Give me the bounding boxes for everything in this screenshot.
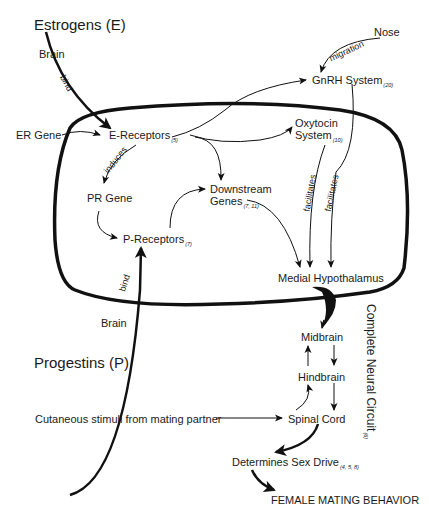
oxytocin-line2: System xyxy=(295,129,332,141)
downstream-line1: Downstream xyxy=(210,183,272,195)
node-pr-gene: PR Gene xyxy=(87,192,132,204)
node-medial-hypothalamus: Medial Hypothalamus xyxy=(278,272,384,284)
node-midbrain: Midbrain xyxy=(301,331,343,343)
edge-preceptors-downstream xyxy=(170,189,205,228)
edge-progestin-bind xyxy=(70,248,141,495)
complete-circuit-ref: (6) xyxy=(363,432,369,439)
edge-ereceptors-gnrh xyxy=(172,80,306,137)
node-er-gene: ER Gene xyxy=(16,129,61,141)
node-progestins: Progestins (P) xyxy=(34,355,129,371)
node-p-receptors: P-Receptors(7) xyxy=(123,233,192,250)
node-brain-top: Brain xyxy=(39,48,65,60)
node-e-receptors: E-Receptors(5) xyxy=(109,129,178,146)
label-complete-neural-circuit: Complete Neural Circuit(6) xyxy=(363,304,378,439)
e-receptors-ref: (5) xyxy=(171,137,178,143)
edge-spinal-sexdrive xyxy=(276,424,318,452)
oxytocin-ref: (10) xyxy=(333,137,343,143)
p-receptors-label: P-Receptors xyxy=(123,233,184,245)
edge-prgene-preceptors xyxy=(97,211,117,238)
oxytocin-line1: Oxytocin xyxy=(295,117,338,129)
node-female-mating-behavior: FEMALE MATING BEHAVIOR xyxy=(271,494,419,506)
node-oxytocin-system: OxytocinSystem(10) xyxy=(295,117,342,146)
gnrh-label: GnRH System xyxy=(312,74,382,86)
sex-drive-label: Determines Sex Drive xyxy=(232,456,339,468)
e-receptors-label: E-Receptors xyxy=(109,129,170,141)
p-receptors-ref: (7) xyxy=(185,241,192,247)
edge-ereceptors-downstream xyxy=(195,137,221,180)
gnrh-ref: (20) xyxy=(383,82,393,88)
node-hindbrain: Hindbrain xyxy=(298,371,345,383)
edge-spinal-hindbrain xyxy=(296,385,309,410)
node-estrogens: Estrogens (E) xyxy=(34,17,126,33)
downstream-line2: Genes xyxy=(210,195,242,207)
complete-circuit-label: Complete Neural Circuit xyxy=(364,304,378,431)
node-downstream-genes: DownstreamGenes(7, 11) xyxy=(210,183,272,212)
node-nose: Nose xyxy=(374,26,400,38)
node-gnrh-system: GnRH System(20) xyxy=(312,74,393,91)
downstream-ref: (7, 11) xyxy=(243,203,259,209)
edge-sexdrive-behavior xyxy=(252,470,274,490)
node-sex-drive: Determines Sex Drive(4, 5, 8) xyxy=(232,456,359,473)
node-spinal-cord: Spinal Cord xyxy=(288,413,345,425)
sex-drive-ref: (4, 5, 8) xyxy=(340,464,359,470)
node-brain-bottom: Brain xyxy=(101,317,127,329)
node-cutaneous-stimuli: Cutaneous stimuli from mating partner xyxy=(35,413,221,425)
